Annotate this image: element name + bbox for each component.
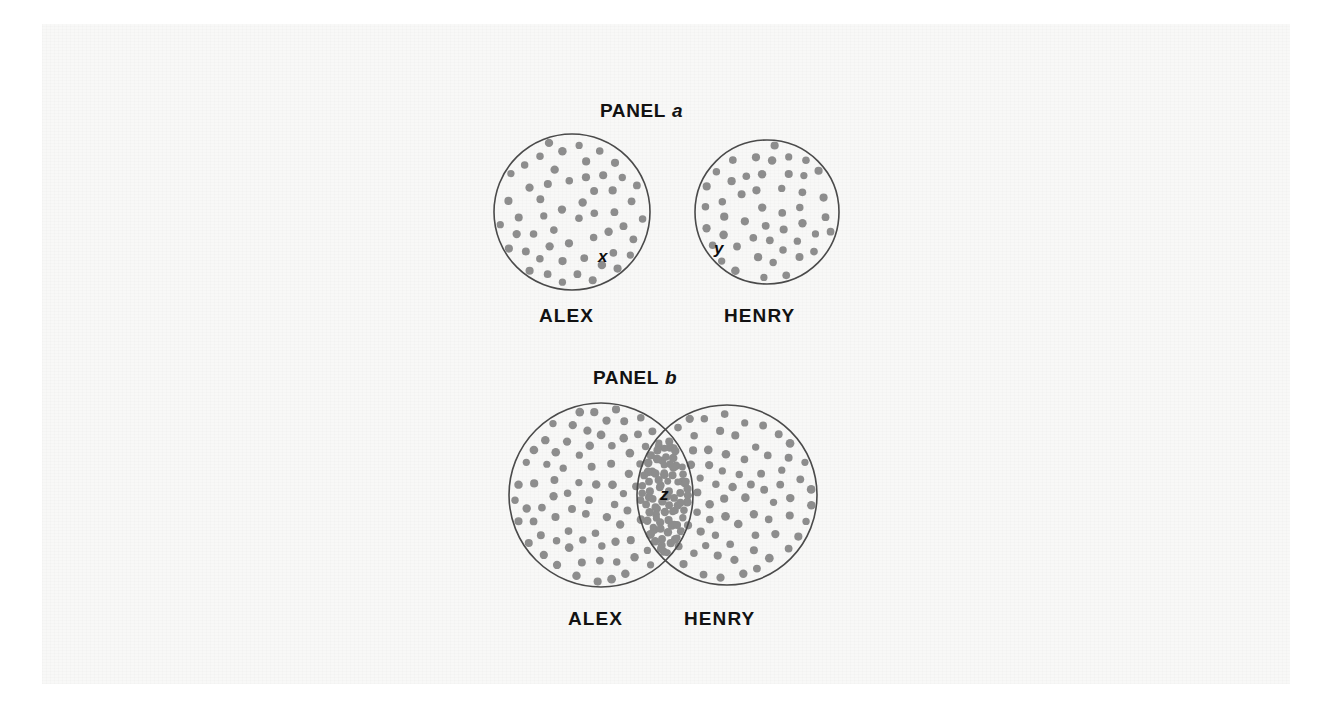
dot <box>768 156 776 164</box>
dot <box>530 518 538 526</box>
dot <box>661 462 668 469</box>
dot <box>702 542 709 549</box>
dot <box>619 174 626 181</box>
dot <box>674 424 682 432</box>
dot <box>599 171 607 179</box>
panel-a-alex-dot-field <box>497 139 647 286</box>
dot <box>801 459 808 466</box>
dot <box>610 249 618 257</box>
dot <box>807 501 816 510</box>
dot <box>530 479 538 487</box>
dot <box>608 442 616 450</box>
dot <box>694 488 702 496</box>
dot <box>596 557 604 565</box>
dot <box>580 254 588 262</box>
dot <box>575 214 583 222</box>
dot <box>543 461 550 468</box>
dot <box>738 190 746 198</box>
dot <box>775 430 783 438</box>
dot <box>721 410 729 418</box>
dot <box>731 267 740 276</box>
dot <box>669 454 678 463</box>
dot <box>785 545 793 553</box>
dot <box>544 270 552 278</box>
dot <box>644 547 651 554</box>
dot <box>583 427 591 435</box>
dot <box>582 510 590 518</box>
dot <box>810 248 818 256</box>
dot <box>739 570 747 578</box>
dot <box>497 221 504 228</box>
dot <box>750 546 758 554</box>
dot <box>603 513 611 521</box>
dot <box>642 443 649 450</box>
dot <box>576 452 583 459</box>
dot <box>752 531 760 539</box>
dot <box>590 408 598 416</box>
dot <box>802 518 809 525</box>
region-label-z: z <box>660 485 669 505</box>
dot <box>654 505 661 512</box>
dot <box>665 438 673 446</box>
dot <box>648 427 656 435</box>
dot <box>796 204 803 211</box>
dot <box>626 449 635 458</box>
dot <box>536 195 544 203</box>
dot <box>507 170 514 177</box>
dot <box>779 246 786 253</box>
dot <box>563 437 571 445</box>
dot <box>697 474 704 481</box>
dot <box>705 461 713 469</box>
dot <box>720 213 728 221</box>
dot <box>611 538 619 546</box>
dot <box>551 448 560 457</box>
dot <box>741 493 750 502</box>
dot <box>646 487 654 495</box>
dot <box>701 415 709 423</box>
dot <box>592 480 601 489</box>
dot <box>733 243 741 251</box>
dot <box>664 528 672 536</box>
dot <box>553 537 560 544</box>
dot <box>716 427 724 435</box>
dot <box>627 536 635 544</box>
dot <box>662 453 669 460</box>
dot <box>620 417 628 425</box>
dot <box>785 454 793 462</box>
dot <box>762 222 770 230</box>
dot <box>749 234 757 242</box>
dot <box>703 182 711 190</box>
dot <box>794 237 801 244</box>
dot <box>786 494 794 502</box>
dot <box>674 535 681 542</box>
dot <box>589 276 597 284</box>
dot <box>776 481 784 489</box>
dot <box>579 536 586 543</box>
dot <box>764 452 772 460</box>
dot <box>679 560 687 568</box>
dot <box>664 516 672 524</box>
dot <box>620 222 628 230</box>
dot <box>621 569 630 578</box>
region-label-y: y <box>714 239 723 259</box>
dot <box>544 180 552 188</box>
dot <box>629 235 637 243</box>
dot <box>647 561 654 568</box>
dot <box>796 253 804 261</box>
dot <box>592 530 600 538</box>
dot <box>602 416 610 424</box>
dot <box>616 520 624 528</box>
dot <box>760 486 768 494</box>
dot <box>668 471 676 479</box>
dot <box>575 479 582 486</box>
dot <box>712 532 719 539</box>
dot <box>604 227 612 235</box>
dot <box>612 405 620 413</box>
dot <box>786 439 795 448</box>
dot <box>683 485 691 493</box>
dot <box>734 520 743 529</box>
dot <box>769 259 776 266</box>
dot <box>722 450 731 459</box>
dot <box>721 512 730 521</box>
dot <box>540 551 548 559</box>
